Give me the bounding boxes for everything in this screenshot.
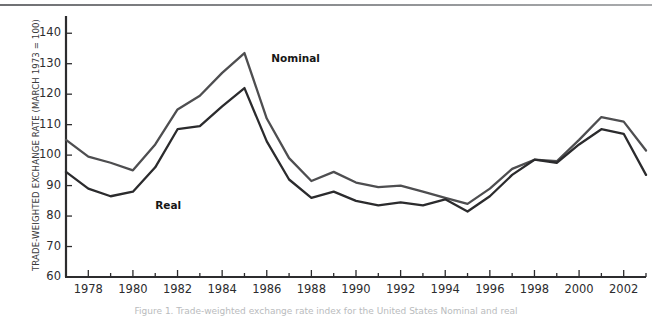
y-tick-label: 80 (27, 210, 61, 222)
x-tick-label: 1988 (288, 284, 334, 296)
figure-container: TRADE-WEIGHTED EXCHANGE RATE (MARCH 1973… (0, 0, 652, 316)
x-tick-label: 2000 (556, 284, 602, 296)
series-line-real (66, 88, 646, 211)
series-line-nominal (66, 53, 646, 204)
y-tick-label: 130 (27, 58, 61, 70)
x-tick-label: 1986 (244, 284, 290, 296)
axis-ticks-group (66, 33, 646, 277)
x-tick-label: 1996 (467, 284, 513, 296)
x-tick-label: 1994 (422, 284, 468, 296)
x-tick-label: 1992 (378, 284, 424, 296)
x-tick-label: 1984 (199, 284, 245, 296)
data-lines-group (66, 53, 646, 211)
y-tick-label: 140 (27, 27, 61, 39)
y-tick-label: 90 (27, 180, 61, 192)
x-tick-label: 1998 (511, 284, 557, 296)
x-tick-label: 1978 (65, 284, 111, 296)
figure-caption: Figure 1. Trade-weighted exchange rate i… (0, 306, 652, 316)
y-tick-label: 120 (27, 88, 61, 100)
y-tick-label: 70 (27, 241, 61, 253)
x-tick-label: 2002 (601, 284, 647, 296)
y-tick-label: 60 (27, 271, 61, 283)
line-chart-svg (0, 0, 652, 316)
x-tick-label: 1980 (110, 284, 156, 296)
x-tick-label: 1982 (155, 284, 201, 296)
y-tick-label: 100 (27, 149, 61, 161)
plot-area: 60708090100110120130140 1978198019821984… (0, 0, 652, 316)
x-tick-label: 1990 (333, 284, 379, 296)
series-label-real: Real (155, 199, 181, 211)
y-tick-label: 110 (27, 119, 61, 131)
series-label-nominal: Nominal (271, 52, 320, 64)
